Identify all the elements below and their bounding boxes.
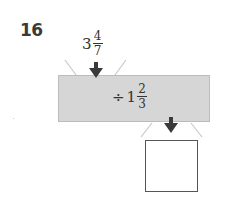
arrow-down-icon <box>164 117 178 133</box>
speck <box>13 118 14 119</box>
arrow-down-icon <box>89 62 103 78</box>
diagram-lines <box>0 0 225 208</box>
